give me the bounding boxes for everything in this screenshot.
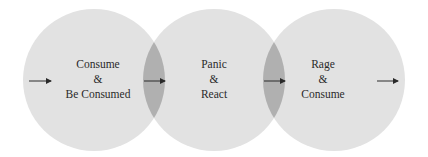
label-line: Rage xyxy=(263,57,383,72)
label-line: & xyxy=(38,72,158,87)
label-panic: Panic & React xyxy=(154,57,274,102)
label-line: React xyxy=(154,87,274,102)
label-rage: Rage & Consume xyxy=(263,57,383,102)
label-consume: Consume & Be Consumed xyxy=(38,57,158,102)
label-line: & xyxy=(263,72,383,87)
label-line: & xyxy=(154,72,274,87)
label-line: Panic xyxy=(154,57,274,72)
label-line: Consume xyxy=(263,87,383,102)
label-line: Be Consumed xyxy=(38,87,158,102)
label-line: Consume xyxy=(38,57,158,72)
